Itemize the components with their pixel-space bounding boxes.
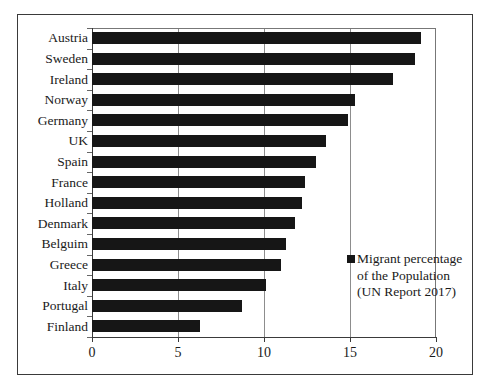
- bar: [92, 176, 305, 188]
- category-tick: [87, 255, 92, 256]
- value-tick-label: 10: [244, 345, 284, 361]
- category-tick: [87, 28, 92, 29]
- value-tick: [92, 337, 93, 342]
- bar: [92, 156, 316, 168]
- value-tick-label: 15: [330, 345, 370, 361]
- category-label: Spain: [2, 155, 88, 169]
- category-axis-labels: AustriaSwedenIrelandNorwayGermanyUKSpain…: [0, 0, 88, 391]
- category-tick: [87, 213, 92, 214]
- bar: [92, 279, 266, 291]
- legend-swatch-icon: [347, 255, 355, 263]
- bar: [92, 135, 326, 147]
- value-tick: [264, 337, 265, 342]
- bar: [92, 300, 242, 312]
- bar: [92, 94, 355, 106]
- category-label: Norway: [2, 93, 88, 107]
- category-tick: [87, 172, 92, 173]
- category-tick: [87, 296, 92, 297]
- bar: [92, 238, 286, 250]
- chart-legend: Migrant percentage of the Population (UN…: [347, 251, 467, 301]
- category-label: Italy: [2, 279, 88, 293]
- category-tick: [87, 69, 92, 70]
- category-label: Portugal: [2, 299, 88, 313]
- value-tick-label: 20: [416, 345, 456, 361]
- category-label: Germany: [2, 114, 88, 128]
- category-label: UK: [2, 134, 88, 148]
- value-tick: [436, 337, 437, 342]
- bar: [92, 197, 302, 209]
- value-tick: [350, 337, 351, 342]
- value-tick-label: 0: [72, 345, 112, 361]
- category-label: Greece: [2, 258, 88, 272]
- bar: [92, 114, 348, 126]
- bar: [92, 32, 421, 44]
- category-label: Holland: [2, 196, 88, 210]
- category-tick: [87, 316, 92, 317]
- bar: [92, 320, 200, 332]
- category-tick: [87, 234, 92, 235]
- category-tick: [87, 131, 92, 132]
- category-label: Austria: [2, 31, 88, 45]
- category-tick: [87, 275, 92, 276]
- category-label: Denmark: [2, 217, 88, 231]
- category-tick: [87, 110, 92, 111]
- category-tick: [87, 90, 92, 91]
- category-label: Ireland: [2, 73, 88, 87]
- category-label: Finland: [2, 320, 88, 334]
- category-label: Belguim: [2, 237, 88, 251]
- value-tick: [178, 337, 179, 342]
- bar: [92, 73, 393, 85]
- bar: [92, 217, 295, 229]
- bar: [92, 53, 415, 65]
- legend-entry: Migrant percentage of the Population (UN…: [347, 251, 467, 301]
- category-label: Sweden: [2, 52, 88, 66]
- bar-chart: AustriaSwedenIrelandNorwayGermanyUKSpain…: [0, 0, 491, 391]
- category-label: France: [2, 176, 88, 190]
- category-tick: [87, 193, 92, 194]
- legend-entry-label: Migrant percentage of the Population (UN…: [357, 251, 462, 301]
- category-tick: [87, 152, 92, 153]
- value-tick-label: 5: [158, 345, 198, 361]
- category-tick: [87, 49, 92, 50]
- bar: [92, 259, 281, 271]
